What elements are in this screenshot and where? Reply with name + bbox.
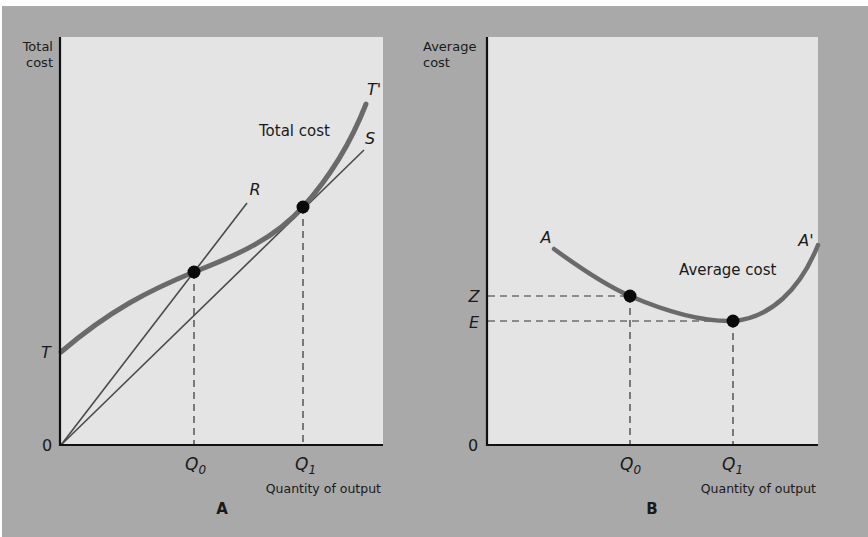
panel-b-q1-label: Q1 <box>722 454 743 477</box>
label-a: A <box>540 228 552 247</box>
panel-a-q0-label: Q0 <box>185 454 206 477</box>
panel-a-plot-area <box>61 37 383 445</box>
label-s: S <box>365 129 375 148</box>
point-q1-total-cost <box>297 201 310 214</box>
panel-a-ylabel-line1: Total <box>22 39 53 54</box>
panel-b-letter: B <box>646 500 657 518</box>
average-cost-curve-label: Average cost <box>679 261 777 279</box>
panel-a-xlabel: Quantity of output <box>266 481 381 496</box>
panel-b-plot-area <box>488 37 818 445</box>
panel-b-origin-label: 0 <box>468 436 478 455</box>
panel-b-xlabel: Quantity of output <box>701 481 816 496</box>
point-q0-average-cost <box>624 290 637 303</box>
label-r: R <box>249 180 260 199</box>
panel-b: Average cost 0 Z E A A' Average cost Q0 … <box>423 37 818 518</box>
label-z: Z <box>468 287 481 306</box>
figure-svg: Total cost 0 T T' S R Total cost Q0 Q1 Q… <box>0 0 868 537</box>
total-cost-curve-label: Total cost <box>258 122 330 140</box>
label-a-prime: A' <box>797 231 813 250</box>
label-t-prime: T' <box>367 80 381 99</box>
panel-a-ylabel-line2: cost <box>26 55 53 70</box>
point-q0-total-cost <box>188 266 201 279</box>
point-q1-minimum-average-cost <box>727 315 740 328</box>
panel-b-ylabel-line2: cost <box>423 55 450 70</box>
label-t: T <box>41 343 52 362</box>
panel-b-q0-label: Q0 <box>620 454 641 477</box>
panel-a-letter: A <box>216 500 228 518</box>
panel-a: Total cost 0 T T' S R Total cost Q0 Q1 Q… <box>22 37 383 518</box>
panel-a-q1-label: Q1 <box>295 454 316 477</box>
label-e: E <box>469 313 480 332</box>
panel-b-ylabel-line1: Average <box>423 39 476 54</box>
panel-a-origin-label: 0 <box>42 436 52 455</box>
